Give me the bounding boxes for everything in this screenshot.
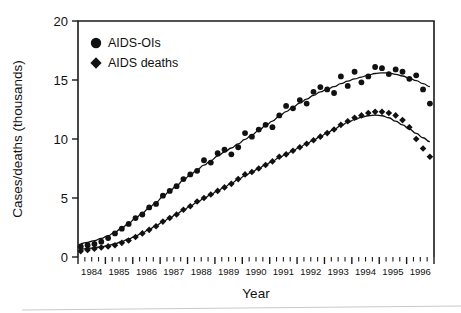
- data-point-marker: [338, 74, 344, 80]
- y-tick-label: 5: [61, 191, 68, 206]
- data-point-marker: [427, 101, 433, 107]
- data-point-marker: [98, 239, 104, 245]
- data-point-marker: [379, 109, 386, 116]
- data-point-marker: [187, 203, 194, 210]
- data-point-marker: [174, 183, 180, 189]
- y-tick-label: 15: [54, 73, 68, 88]
- data-point-marker: [139, 212, 145, 218]
- data-point-marker: [413, 136, 420, 143]
- data-point-marker: [201, 157, 207, 163]
- data-point-marker: [249, 169, 256, 176]
- data-point-marker: [105, 235, 111, 241]
- data-point-marker: [324, 87, 330, 93]
- y-tick-label: 20: [54, 14, 68, 29]
- x-tick-label: 1996: [410, 266, 431, 277]
- data-point-marker: [420, 145, 427, 152]
- data-point-marker: [386, 110, 393, 117]
- data-point-marker: [379, 65, 385, 71]
- data-point-marker: [262, 162, 269, 169]
- x-tick-label: 1985: [109, 266, 130, 277]
- x-tick-label: 1991: [273, 266, 294, 277]
- data-point-marker: [331, 90, 337, 96]
- data-point-marker: [133, 215, 139, 221]
- legend-marker-circle-icon: [91, 38, 101, 48]
- data-point-marker: [406, 76, 412, 82]
- data-point-marker: [303, 140, 310, 147]
- x-tick-label: 1992: [300, 266, 321, 277]
- data-point-marker: [194, 168, 200, 174]
- data-point-marker: [146, 227, 153, 234]
- data-point-marker: [160, 218, 167, 225]
- data-point-marker: [139, 230, 146, 237]
- data-point-marker: [235, 176, 242, 183]
- data-point-marker: [249, 134, 255, 140]
- y-tick-label: 10: [54, 132, 68, 147]
- y-axis-tick-labels: 05101520: [54, 14, 68, 265]
- data-point-marker: [160, 193, 166, 199]
- data-point-marker: [180, 207, 187, 214]
- data-point-marker: [311, 89, 317, 95]
- figure-container: 05101520 1984198519861987198819891990199…: [0, 0, 461, 313]
- y-axis-title: Cases/deaths (thousands): [10, 60, 25, 218]
- series-markers: [77, 64, 433, 254]
- data-point-marker: [310, 137, 317, 144]
- x-axis-tick-labels: 1984198519861987198819891990199119921993…: [81, 266, 431, 277]
- x-tick-label: 1987: [163, 266, 184, 277]
- data-point-marker: [208, 160, 214, 166]
- data-point-marker: [263, 122, 269, 128]
- x-tick-label: 1989: [218, 266, 239, 277]
- data-point-marker: [399, 117, 406, 124]
- data-point-marker: [214, 188, 221, 195]
- data-point-marker: [98, 244, 105, 251]
- data-point-marker: [276, 113, 282, 119]
- legend-label-aids-ois: AIDS-OIs: [108, 36, 161, 50]
- data-point-marker: [304, 101, 310, 107]
- data-point-marker: [215, 150, 221, 156]
- data-point-marker: [283, 103, 289, 109]
- data-point-marker: [173, 211, 180, 218]
- data-point-marker: [297, 97, 303, 103]
- data-point-marker: [221, 184, 228, 191]
- series-trend-lines: [81, 73, 430, 249]
- data-point-marker: [91, 245, 98, 252]
- data-point-marker: [146, 205, 152, 211]
- data-point-marker: [359, 79, 365, 85]
- aids-cases-deaths-chart: 05101520 1984198519861987198819891990199…: [0, 0, 461, 313]
- data-point-marker: [181, 176, 187, 182]
- data-point-marker: [84, 247, 91, 254]
- x-axis-title: Year: [242, 286, 270, 301]
- x-tick-label: 1994: [355, 266, 376, 277]
- data-point-marker: [427, 153, 434, 160]
- data-point-marker: [393, 66, 399, 72]
- data-point-marker: [208, 191, 215, 198]
- chart-legend: AIDS-OIs AIDS deaths: [90, 36, 178, 70]
- data-point-marker: [352, 69, 358, 75]
- data-point-marker: [270, 124, 276, 130]
- y-tick-label: 0: [61, 250, 68, 265]
- data-point-marker: [166, 215, 173, 222]
- legend-marker-diamond-icon: [90, 57, 101, 69]
- data-point-marker: [392, 112, 399, 119]
- data-point-marker: [228, 151, 234, 157]
- data-point-marker: [235, 144, 241, 150]
- data-point-marker: [400, 69, 406, 75]
- data-point-marker: [297, 144, 304, 151]
- data-point-marker: [413, 72, 419, 78]
- data-point-marker: [242, 130, 248, 136]
- y-axis-ticks: [72, 21, 78, 257]
- data-point-marker: [255, 165, 262, 172]
- data-point-marker: [201, 195, 208, 202]
- data-point-marker: [290, 105, 296, 111]
- data-point-marker: [372, 109, 379, 116]
- data-point-marker: [317, 133, 324, 140]
- x-tick-label: 1984: [81, 266, 102, 277]
- data-point-marker: [331, 126, 338, 133]
- data-point-marker: [269, 158, 276, 165]
- data-point-marker: [256, 127, 262, 133]
- data-point-marker: [345, 83, 351, 89]
- data-point-marker: [167, 188, 173, 194]
- data-point-marker: [126, 221, 132, 227]
- data-point-marker: [290, 148, 297, 155]
- data-point-marker: [365, 74, 371, 80]
- data-point-marker: [317, 84, 323, 90]
